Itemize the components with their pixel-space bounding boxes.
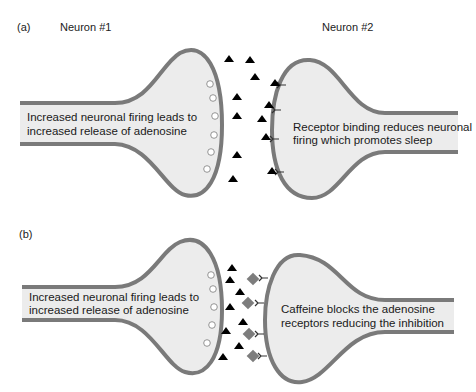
neuron1-text-b-line2: increased release of adenosine	[29, 304, 189, 316]
neuron2-text-line2: firing which promotes sleep	[293, 134, 432, 146]
panel-a-label: (a)	[17, 21, 30, 33]
neuron2-title: Neuron #2	[322, 21, 373, 33]
neuron1-text-line1: Increased neuronal firing leads to	[27, 111, 197, 123]
neuron2-text-b-line1: Caffeine blocks the adenosine	[281, 303, 435, 315]
caffeine-molecules	[242, 273, 260, 363]
adenosine-caffeine-diagram: (a) Neuron #1 Neuron #2 Increased neuron…	[0, 0, 476, 392]
neuron2-text-line1: Receptor binding reduces neuronal	[293, 121, 472, 133]
neuron1-title: Neuron #1	[60, 21, 111, 33]
panel-b: (b) Increased neuronal firing leads to i…	[19, 228, 454, 382]
neuron2-text-b-line2: receptors reducing the inhibition	[281, 317, 444, 329]
neuron1-text-line2: increased release of adenosine	[27, 125, 187, 137]
panel-b-label: (b)	[19, 228, 32, 240]
panel-a: (a) Neuron #1 Neuron #2 Increased neuron…	[17, 21, 472, 198]
neuron1-text-b-line1: Increased neuronal firing leads to	[29, 291, 199, 303]
